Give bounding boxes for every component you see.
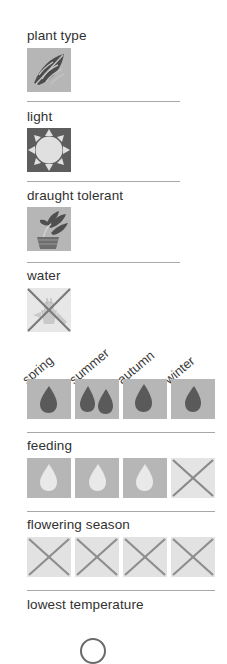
- light-icon-tile[interactable]: [27, 128, 71, 172]
- watering-cell-winter[interactable]: [171, 379, 215, 419]
- feed-drop-icon: [75, 458, 119, 498]
- divider-after-feeding: [27, 511, 215, 512]
- watering-cell-spring[interactable]: [27, 379, 71, 419]
- feeding-cell-spring[interactable]: [27, 458, 71, 498]
- potted-plant-icon: [27, 207, 71, 251]
- feed-drop-icon: [123, 458, 167, 498]
- draught-tolerant-icon-tile[interactable]: [27, 207, 71, 251]
- section-label-light: light: [27, 109, 52, 124]
- water-drop-icon: [75, 379, 119, 419]
- flowering-cell-summer[interactable]: [75, 537, 119, 577]
- section-label-draught-tolerant: draught tolerant: [27, 188, 123, 203]
- feeding-cell-summer[interactable]: [75, 458, 119, 498]
- crossed-out-overlay: [123, 537, 167, 577]
- crossed-out-overlay: [75, 537, 119, 577]
- flowering-cell-autumn[interactable]: [123, 537, 167, 577]
- feeding-cell-autumn[interactable]: [123, 458, 167, 498]
- section-label-feeding: feeding: [27, 438, 72, 453]
- divider-after-light: [27, 181, 180, 182]
- crossed-out-overlay: [171, 458, 215, 498]
- section-label-water: water: [27, 268, 61, 283]
- flowering-cell-spring[interactable]: [27, 537, 71, 577]
- feed-drop-icon: [27, 458, 71, 498]
- section-label-flowering-season: flowering season: [27, 517, 130, 532]
- crossed-out-overlay: [27, 537, 71, 577]
- divider-after-draught-tolerant: [27, 262, 180, 263]
- water-drop-icon: [123, 379, 167, 419]
- sun-icon: [27, 128, 71, 172]
- plant-type-icon-tile[interactable]: [27, 48, 71, 92]
- crossed-out-overlay: [27, 288, 71, 332]
- section-label-lowest-temperature: lowest temperature: [27, 597, 144, 612]
- lowest-temperature-value-circle[interactable]: [80, 638, 106, 664]
- leaf-icon: [27, 48, 71, 92]
- water-drop-icon: [27, 379, 71, 419]
- watering-cell-summer[interactable]: [75, 379, 119, 419]
- section-label-plant-type: plant type: [27, 28, 87, 43]
- divider-after-flowering: [27, 590, 215, 591]
- water-icon-tile[interactable]: [27, 288, 71, 332]
- watering-cell-autumn[interactable]: [123, 379, 167, 419]
- divider-after-watering: [27, 432, 215, 433]
- flowering-cell-winter[interactable]: [171, 537, 215, 577]
- crossed-out-overlay: [171, 537, 215, 577]
- feeding-cell-winter[interactable]: [171, 458, 215, 498]
- water-drop-icon: [171, 379, 215, 419]
- divider-after-plant-type: [27, 101, 180, 102]
